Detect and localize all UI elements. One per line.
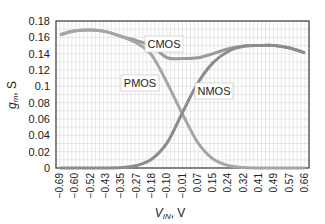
x-tick-label: 0.15 <box>207 173 218 193</box>
y-tick-label: 0.02 <box>29 146 50 158</box>
x-tick-label: −0.10 <box>161 173 172 199</box>
y-tick-label: 0.12 <box>29 64 50 76</box>
x-tick-label: 0.32 <box>238 173 249 193</box>
y-axis-title: gm, S <box>5 81 20 109</box>
label-nmos: NMOS <box>198 85 231 97</box>
y-tick-label: 0.04 <box>29 129 50 141</box>
x-tick-label: −0.69 <box>54 173 65 199</box>
gm-vs-vin-chart: 00.020.040.060.080.10.120.140.160.18 −0.… <box>0 0 325 224</box>
x-tick-label: −0.18 <box>146 173 157 199</box>
x-tick-label: 0.49 <box>268 173 279 193</box>
x-tick-label: −0.52 <box>85 173 96 199</box>
y-axis-ticks: 00.020.040.060.080.10.120.140.160.18 <box>29 15 50 174</box>
x-tick-label: 0.41 <box>253 173 264 193</box>
y-tick-label: 0.1 <box>35 80 50 92</box>
x-tick-label: 0.24 <box>222 173 233 193</box>
label-pmos: PMOS <box>124 77 156 89</box>
x-tick-label: −0.43 <box>100 173 111 199</box>
x-tick-label: 0.57 <box>284 173 295 193</box>
chart-svg: 00.020.040.060.080.10.120.140.160.18 −0.… <box>0 0 325 224</box>
y-tick-label: 0.16 <box>29 31 50 43</box>
y-tick-label: 0.14 <box>29 48 50 60</box>
x-tick-label: 0.66 <box>299 173 310 193</box>
y-tick-label: 0.18 <box>29 15 50 27</box>
x-tick-label: −0.27 <box>131 173 142 199</box>
y-tick-label: 0.06 <box>29 113 50 125</box>
label-cmos: CMOS <box>148 38 181 50</box>
x-tick-label: −0.35 <box>115 173 126 199</box>
y-tick-label: 0.08 <box>29 97 50 109</box>
x-axis-title: VIN, V <box>155 206 186 221</box>
x-tick-label: −0.01 <box>177 173 188 199</box>
x-axis-ticks: −0.69−0.60−0.52−0.43−0.35−0.27−0.18−0.10… <box>54 173 310 199</box>
y-tick-label: 0 <box>44 162 50 174</box>
x-tick-label: 0.07 <box>192 173 203 193</box>
x-tick-label: −0.60 <box>69 173 80 199</box>
